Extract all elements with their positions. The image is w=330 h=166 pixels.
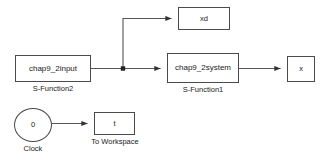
block-to-workspace[interactable]: t — [94, 112, 135, 135]
block-x-label: x — [299, 65, 303, 73]
block-x[interactable]: x — [287, 56, 315, 82]
caption-clock: Clock — [8, 145, 58, 153]
block-to-workspace-label: t — [113, 120, 115, 128]
caption-to-workspace: To Workspace — [76, 138, 154, 146]
signal-branch-junction — [121, 66, 125, 70]
block-s-function2[interactable]: chap9_2input — [15, 55, 91, 82]
signal-wires-layer — [0, 0, 330, 166]
block-s-function1-label: chap9_2system — [175, 64, 231, 72]
block-xd-label: xd — [200, 15, 208, 23]
block-xd[interactable]: xd — [178, 7, 230, 30]
block-clock-label: 0 — [31, 121, 35, 129]
wire-branch-to-xd — [123, 19, 172, 69]
caption-s-function2: S-Function2 — [0, 85, 106, 93]
block-clock[interactable]: 0 — [14, 108, 52, 142]
block-diagram-canvas: chap9_2input S-Function2 chap9_2system S… — [0, 0, 330, 166]
block-s-function1[interactable]: chap9_2system — [167, 53, 239, 83]
caption-s-function1: S-Function1 — [155, 86, 251, 94]
block-s-function2-label: chap9_2input — [29, 65, 77, 73]
